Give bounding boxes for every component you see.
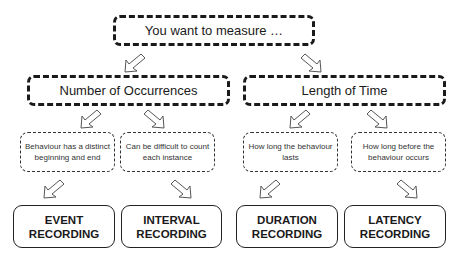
method-line2: RECORDING bbox=[136, 227, 206, 241]
method-latency-recording: LATENCY RECORDING bbox=[344, 205, 446, 248]
arrow-down-right-icon bbox=[143, 108, 167, 130]
arrow-down-right-icon bbox=[170, 178, 194, 200]
root-node: You want to measure … bbox=[113, 15, 315, 46]
category-length-of-time: Length of Time bbox=[243, 75, 446, 106]
arrow-down-left-icon bbox=[257, 178, 281, 200]
arrow-down-left-icon bbox=[41, 178, 65, 200]
category-number-of-occurrences: Number of Occurrences bbox=[27, 75, 230, 106]
arrow-down-right-icon bbox=[300, 52, 324, 74]
method-duration-recording: DURATION RECORDING bbox=[236, 205, 338, 248]
description-difficult-to-count: Can be difficult to count each instance bbox=[120, 132, 215, 172]
arrow-down-left-icon bbox=[78, 108, 102, 130]
arrow-down-right-icon bbox=[396, 178, 420, 200]
method-line2: RECORDING bbox=[29, 227, 99, 241]
arrow-down-left-icon bbox=[122, 52, 146, 74]
method-line1: EVENT bbox=[29, 213, 99, 227]
description-label: How long the behaviour lasts bbox=[248, 141, 333, 163]
description-label: How long before the behaviour occurs bbox=[356, 141, 441, 163]
method-line2: RECORDING bbox=[252, 227, 322, 241]
method-line2: RECORDING bbox=[360, 227, 430, 241]
arrow-down-right-icon bbox=[366, 108, 390, 130]
method-line1: LATENCY bbox=[360, 213, 430, 227]
arrow-down-left-icon bbox=[287, 108, 311, 130]
description-how-long-before: How long before the behaviour occurs bbox=[351, 132, 446, 172]
description-label: Can be difficult to count each instance bbox=[125, 141, 210, 163]
method-line1: DURATION bbox=[252, 213, 322, 227]
description-label: Behaviour has a distinct beginning and e… bbox=[25, 141, 110, 163]
description-how-long-lasts: How long the behaviour lasts bbox=[243, 132, 338, 172]
category-label: Number of Occurrences bbox=[60, 83, 198, 98]
method-line1: INTERVAL bbox=[136, 213, 206, 227]
method-event-recording: EVENT RECORDING bbox=[13, 205, 115, 248]
category-label: Length of Time bbox=[302, 83, 388, 98]
root-label: You want to measure … bbox=[145, 23, 283, 38]
method-interval-recording: INTERVAL RECORDING bbox=[121, 205, 222, 248]
description-distinct-beginning-end: Behaviour has a distinct beginning and e… bbox=[20, 132, 115, 172]
